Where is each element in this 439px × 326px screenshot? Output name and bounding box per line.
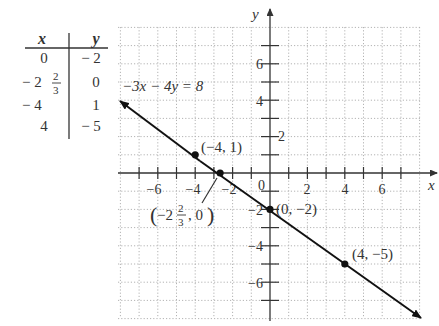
label-point-0-neg2: (0, −2)	[276, 201, 317, 218]
equation-line	[120, 101, 200, 161]
svg-text:−4: −4	[248, 239, 263, 254]
svg-text:4: 4	[342, 182, 349, 197]
svg-text:−6: −6	[248, 276, 263, 291]
svg-text:6: 6	[379, 182, 386, 197]
values-table: x y 0 − 2 − 2 2 3 0 − 4 1 4 − 5	[22, 30, 108, 139]
table-row-4-x: 4	[40, 118, 48, 134]
svg-text:, 0: , 0	[188, 207, 203, 223]
x-tick-labels: −6 −4 −2 2 4 6	[147, 182, 386, 197]
origin-label: 0	[258, 178, 265, 193]
svg-text:−2: −2	[157, 207, 173, 223]
svg-text:3: 3	[53, 84, 59, 96]
label-point-4-neg5: (4, −5)	[352, 246, 393, 263]
point-x-intercept	[217, 169, 224, 176]
x-axis-label: x	[427, 177, 435, 193]
table-row-4-y: − 5	[81, 118, 101, 134]
svg-text:2: 2	[278, 129, 285, 144]
svg-text:2: 2	[178, 202, 184, 214]
axes	[118, 9, 437, 321]
table-row-1-x: 0	[40, 50, 48, 66]
leader-line	[202, 178, 217, 203]
point-4-neg5	[341, 260, 348, 267]
svg-text:): )	[207, 202, 214, 227]
table-row-3-y: 1	[92, 97, 100, 113]
point-y-intercept	[266, 206, 273, 213]
label-point-neg4-1: (−4, 1)	[201, 139, 242, 156]
table-row-1-y: − 2	[81, 50, 101, 66]
table-header-x: x	[37, 30, 46, 47]
svg-text:−4: −4	[186, 182, 201, 197]
svg-text:−6: −6	[147, 182, 162, 197]
table-header-y: y	[90, 30, 100, 48]
graph-figure: y x 0 −6 −4 −2 2 4 6 6 4 2 −2 −4 −6 (−4,…	[0, 0, 439, 326]
point-neg4-1	[192, 151, 199, 158]
y-axis-label: y	[250, 6, 259, 22]
y-tick-labels: 6 4 2 −2 −4 −6	[248, 57, 285, 291]
svg-text:2: 2	[304, 182, 311, 197]
table-row-3-x: − 4	[22, 97, 42, 113]
svg-text:2: 2	[53, 70, 59, 82]
table-row-2-y: 0	[92, 74, 100, 90]
table-row-2-x: − 2	[22, 74, 42, 90]
svg-text:6: 6	[256, 57, 263, 72]
equation-line-lower	[200, 161, 421, 318]
equation-label: −3x − 4y = 8	[122, 78, 204, 94]
svg-text:3: 3	[178, 216, 184, 228]
svg-text:4: 4	[256, 94, 263, 109]
label-x-intercept: ( −2 2 3 , 0 )	[150, 202, 214, 228]
